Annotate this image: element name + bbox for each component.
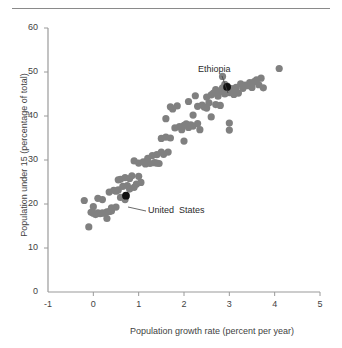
data-point bbox=[85, 223, 92, 230]
data-point bbox=[205, 99, 212, 106]
data-point bbox=[162, 115, 169, 122]
y-axis-title: Population under 15 (percentage of total… bbox=[19, 45, 29, 265]
data-point bbox=[90, 203, 97, 210]
x-tick-label-2: 2 bbox=[174, 299, 194, 309]
data-point bbox=[180, 137, 187, 144]
x-axis-title: Population growth rate (percent per year… bbox=[92, 326, 332, 336]
data-point bbox=[189, 112, 196, 119]
leader-line bbox=[128, 207, 146, 211]
data-point bbox=[192, 92, 199, 99]
data-point bbox=[226, 126, 233, 133]
data-point bbox=[165, 148, 172, 155]
data-point bbox=[257, 75, 264, 82]
data-point bbox=[81, 197, 88, 204]
x-tick-label-5: 5 bbox=[310, 299, 330, 309]
x-tick-label-0: 0 bbox=[83, 299, 103, 309]
data-point bbox=[135, 173, 142, 180]
data-point bbox=[167, 134, 174, 141]
data-point bbox=[217, 102, 224, 109]
data-point bbox=[128, 172, 135, 179]
x-tick-label-1: 1 bbox=[129, 299, 149, 309]
data-point bbox=[99, 196, 106, 203]
data-point bbox=[208, 113, 215, 120]
scatter-plot-canvas bbox=[0, 0, 342, 348]
annotation-label-ethiopia: Ethiopia bbox=[198, 64, 231, 74]
data-point bbox=[155, 160, 162, 167]
figure-container: 0102030405060 -1012345 Population under … bbox=[0, 0, 342, 348]
annotation-label-united-states: United States bbox=[148, 205, 205, 215]
highlighted-data-point-united-states bbox=[122, 192, 130, 200]
data-point bbox=[112, 203, 119, 210]
data-point bbox=[260, 84, 267, 91]
data-point bbox=[137, 179, 144, 186]
x-tick-label--1: -1 bbox=[38, 299, 58, 309]
data-point bbox=[174, 102, 181, 109]
y-tick-label-60: 60 bbox=[18, 22, 38, 32]
data-point bbox=[226, 119, 233, 126]
y-tick-label-0: 0 bbox=[18, 286, 38, 296]
data-point bbox=[196, 126, 203, 133]
data-point bbox=[185, 98, 192, 105]
x-tick-label-3: 3 bbox=[219, 299, 239, 309]
data-point bbox=[276, 65, 283, 72]
x-tick-label-4: 4 bbox=[265, 299, 285, 309]
data-point bbox=[103, 215, 110, 222]
data-point bbox=[194, 120, 201, 127]
